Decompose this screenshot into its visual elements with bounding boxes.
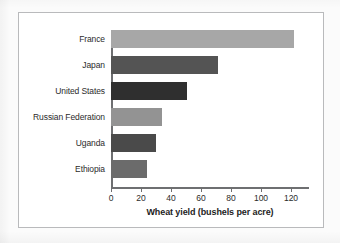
x-tick-label: 60 [196,193,205,203]
bar-united-states [111,82,187,100]
bar-ethiopia [111,160,147,178]
category-label-france: France [79,30,105,48]
x-tick-label: 20 [136,193,145,203]
x-tick-mark [291,188,292,192]
category-label-uganda: Uganda [76,134,105,152]
category-label-russian-federation: Russian Federation [33,108,105,126]
bar-russian-federation [111,108,162,126]
chart-plot-area: France Japan United States Russian Feder… [19,13,323,227]
bar-japan [111,56,218,74]
x-tick-label: 100 [254,193,268,203]
x-tick-mark [111,188,112,192]
page-background: France Japan United States Russian Feder… [0,0,340,243]
x-tick-label: 40 [166,193,175,203]
x-tick-mark [261,188,262,192]
x-tick-mark [201,188,202,192]
x-axis-title: Wheat yield (bushels per acre) [111,207,309,217]
category-label-ethiopia: Ethiopia [75,160,105,178]
x-tick-label: 80 [226,193,235,203]
category-label-japan: Japan [82,56,105,74]
x-tick-mark [231,188,232,192]
x-tick-label: 120 [284,193,298,203]
x-tick-mark [171,188,172,192]
bar-france [111,30,294,48]
category-label-united-states: United States [55,82,105,100]
figure-frame: France Japan United States Russian Feder… [18,12,324,228]
bar-uganda [111,134,156,152]
x-tick-label: 0 [109,193,114,203]
x-tick-mark [141,188,142,192]
